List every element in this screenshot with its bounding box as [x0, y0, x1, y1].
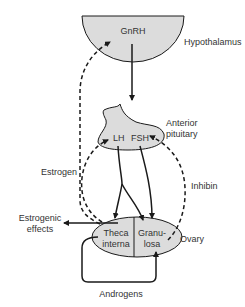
estrogenic-effects-label-1: Estrogenic — [12, 213, 68, 223]
lh-arrow-granulosa — [122, 184, 143, 220]
theca-interna-label-2: interna — [99, 239, 133, 249]
hypothalamus-shape — [82, 16, 184, 62]
gnrh-label: GnRH — [118, 26, 148, 36]
granulosa-label-1: Granu- — [135, 228, 169, 238]
anterior-pituitary-label-1: Anterior — [166, 118, 198, 128]
inhibin-label: Inhibin — [191, 181, 218, 191]
hypothalamus-label: Hypothalamus — [184, 37, 242, 47]
fsh-label: FSH — [131, 133, 149, 143]
androgens-label: Androgens — [94, 289, 148, 299]
estrogen-label: Estrogen — [41, 167, 77, 177]
ovary-label: Ovary — [180, 234, 204, 244]
estrogenic-effects-label-2: effects — [12, 224, 68, 234]
anterior-pituitary-label-2: pituitary — [166, 129, 198, 139]
lh-arrow-theca — [115, 146, 122, 218]
fsh-arrow — [140, 146, 152, 218]
theca-interna-label-1: Theca — [99, 228, 133, 238]
lh-label: LH — [113, 133, 125, 143]
pituitary-shape — [98, 104, 164, 150]
granulosa-label-2: losa — [135, 239, 169, 249]
estrogen-feedback-pituitary — [82, 140, 108, 222]
